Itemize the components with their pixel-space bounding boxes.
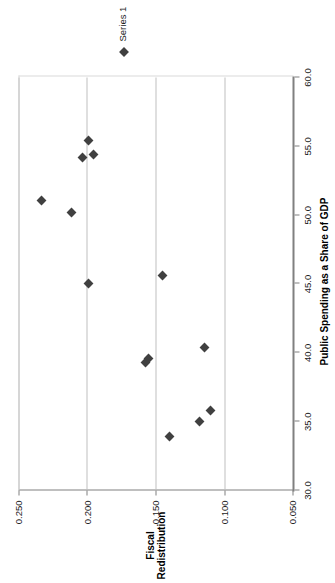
x-axis-tick: [294, 76, 299, 77]
x-tick-label: 35.0: [301, 401, 312, 441]
y-axis-title-line-2: Redistribution: [155, 500, 166, 583]
x-axis-tick: [294, 145, 299, 146]
y-tick-label: 0.250: [12, 500, 23, 546]
x-axis-title: Public Spending as a Share of GDP: [318, 0, 329, 562]
x-axis-line: [292, 76, 294, 491]
y-axis-title: Fiscal Redistribution: [144, 500, 166, 583]
y-axis-tick: [155, 490, 156, 495]
y-axis-tick: [86, 490, 87, 495]
y-tick-label: 0.200: [81, 500, 92, 546]
x-tick-label: 50.0: [301, 195, 312, 235]
x-axis-tick: [294, 282, 299, 283]
y-axis-tick: [292, 490, 293, 495]
legend-series-1-label: Series 1: [116, 6, 127, 41]
x-tick-label: 40.0: [301, 332, 312, 372]
y-axis-title-line-1: Fiscal: [144, 500, 155, 583]
y-axis-tick: [224, 490, 225, 495]
x-tick-label: 30.0: [301, 470, 312, 510]
gridline-y: [18, 77, 19, 490]
x-axis-tick: [294, 351, 299, 352]
x-axis-tick: [294, 420, 299, 421]
legend-diamond-icon: [119, 47, 129, 57]
x-tick-label: 45.0: [301, 264, 312, 304]
y-axis-tick: [18, 490, 19, 495]
gridline-y: [155, 77, 156, 490]
x-axis-tick: [294, 214, 299, 215]
x-tick-label: 55.0: [301, 126, 312, 166]
x-tick-label: 60.0: [301, 57, 312, 97]
y-tick-label: 0.050: [286, 500, 297, 546]
y-tick-label: 0.100: [218, 500, 229, 546]
gridline-y: [224, 77, 225, 490]
x-axis-tick: [294, 489, 299, 490]
